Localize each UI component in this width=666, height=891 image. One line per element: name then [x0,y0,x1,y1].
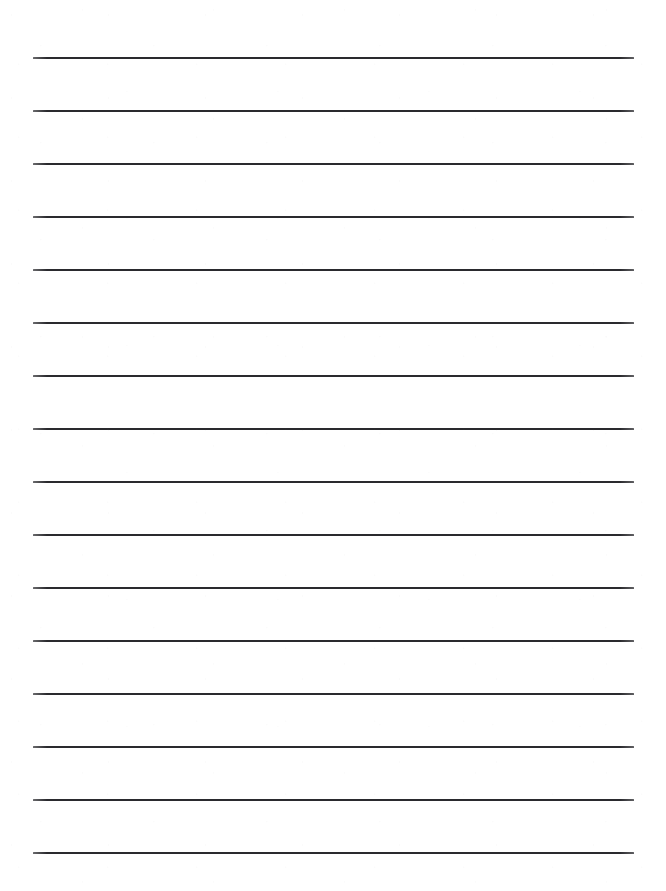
lined-paper-page [0,0,666,891]
rule-line [33,428,634,430]
rule-line [33,640,634,642]
rule-line [33,534,634,536]
rule-line [33,746,634,748]
rule-line [33,587,634,589]
rule-line [33,322,634,324]
rule-line-layer [0,0,666,891]
rule-line [33,216,634,218]
rule-line [33,375,634,377]
rule-line [33,481,634,483]
rule-line [33,852,634,854]
rule-line [33,110,634,112]
rule-line [33,799,634,801]
rule-line [33,57,634,59]
rule-line [33,163,634,165]
rule-line [33,269,634,271]
rule-line [33,693,634,695]
